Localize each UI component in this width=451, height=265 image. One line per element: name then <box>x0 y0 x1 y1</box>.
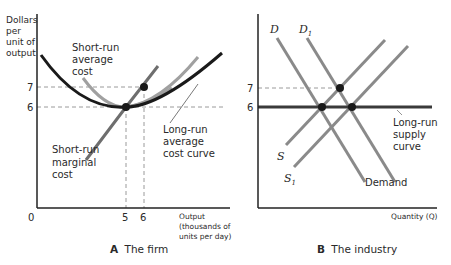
y-tick-7: 7 <box>27 82 33 93</box>
label-s1: S1 <box>284 172 296 187</box>
origin-label: 0 <box>28 212 34 223</box>
y-axis-label: Dollars per unit of output <box>6 15 40 58</box>
y-tick-7-industry: 7 <box>247 83 253 94</box>
label-s: S <box>277 150 285 163</box>
label-short-run-average-cost: Short-run average cost <box>72 42 122 77</box>
point-min-cost <box>122 103 130 111</box>
panel-b-industry: 7 6 D D1 S S1 Demand Long-run supply cur… <box>247 14 441 255</box>
diagram-canvas: Dollars per unit of output 7 6 0 5 6 Out… <box>0 0 451 265</box>
x-tick-5: 5 <box>122 212 128 223</box>
label-short-run-marginal-cost: Short-run marginal cost <box>52 144 102 180</box>
supply-curve-s <box>286 40 385 145</box>
point-short-run-equilibrium <box>336 84 344 92</box>
panel-a-firm: Dollars per unit of output 7 6 0 5 6 Out… <box>6 14 233 255</box>
point-initial-equilibrium <box>318 103 326 111</box>
x-tick-6: 6 <box>140 212 146 223</box>
label-d: D <box>269 23 279 36</box>
label-demand: Demand <box>365 177 407 188</box>
y-tick-6-industry: 6 <box>247 102 253 113</box>
lr-supply-leader-line <box>397 110 402 115</box>
x-axis-label: Output (thousands of units per day) <box>179 212 233 241</box>
panel-b-caption: B The industry <box>317 243 397 255</box>
label-long-run-supply-curve: Long-run supply curve <box>393 117 441 152</box>
point-price-7 <box>140 83 148 91</box>
point-long-run-equilibrium <box>348 103 356 111</box>
x-axis-label-industry: Quantity (Q) <box>391 212 438 221</box>
label-long-run-average-cost: Long-run average cost curve <box>163 124 215 159</box>
label-d1: D1 <box>298 23 312 38</box>
y-tick-6: 6 <box>27 102 33 113</box>
panel-a-caption: A The firm <box>110 243 168 255</box>
